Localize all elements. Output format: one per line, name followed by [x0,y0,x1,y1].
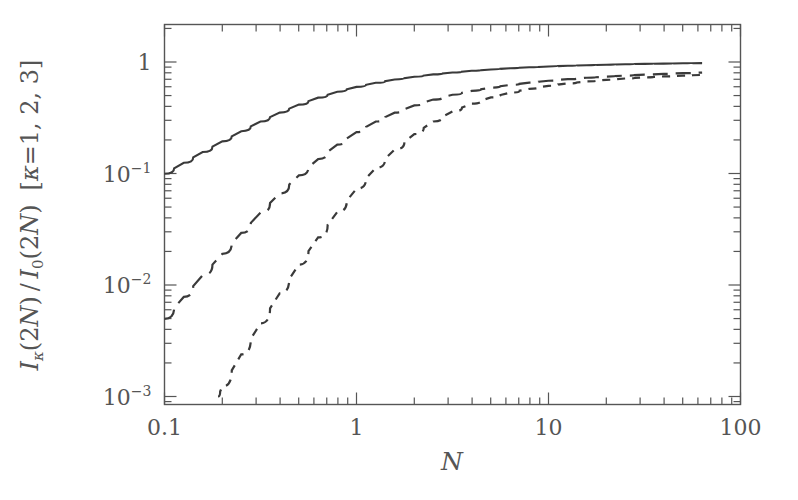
x-tick-label: 100 [720,415,762,440]
x-tick-label: 1 [350,415,364,440]
y-axis-title: Iκ(2N) / I0(2N)[κ=1, 2, 3] [16,60,47,372]
y-tick-label: 1 [138,50,152,75]
x-axis-title: N [440,447,464,476]
bessel-ratio-plot: 0.1110100 110−110−210−3 N Iκ(2N) / I0(2N… [0,0,798,500]
x-tick-label: 0.1 [147,415,182,440]
svg-text:1: 1 [138,50,152,75]
figure-page: 0.1110100 110−110−210−3 N Iκ(2N) / I0(2N… [0,0,798,500]
y-axis-title-text: Iκ(2N) / I0(2N)[κ=1, 2, 3] [16,60,47,372]
x-tick-label: 10 [535,415,563,440]
